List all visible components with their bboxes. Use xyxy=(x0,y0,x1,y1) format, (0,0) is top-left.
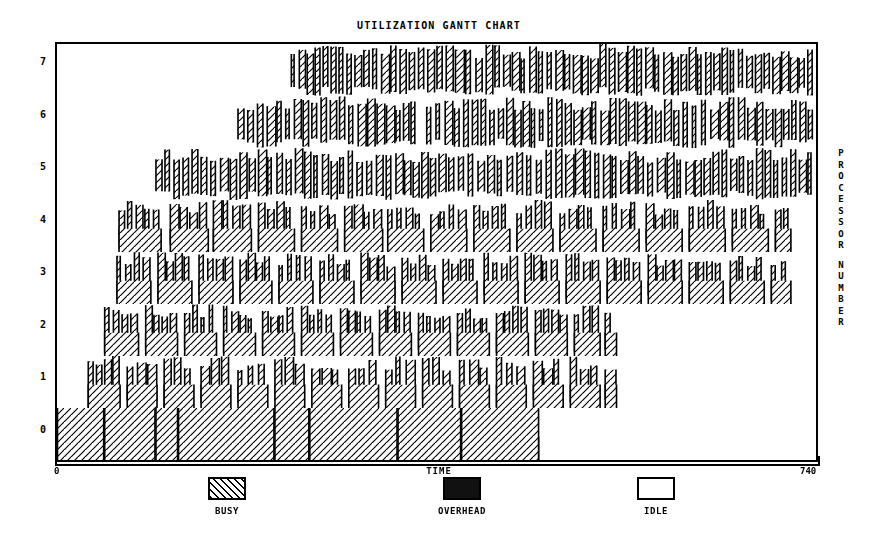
page-title: UTILIZATION GANTT CHART xyxy=(0,20,878,31)
legend-item-idle: IDLE xyxy=(618,477,694,516)
legend: BUSY OVERHEAD IDLE xyxy=(0,477,878,535)
legend-label-busy: BUSY xyxy=(189,506,265,516)
x-axis-title: TIME xyxy=(0,466,878,476)
y-axis-tick-label-4: 4 xyxy=(26,214,46,225)
legend-item-busy: BUSY xyxy=(189,477,265,516)
gantt-chart-page: UTILIZATION GANTT CHART 76543210 0 740 T… xyxy=(0,0,878,535)
y-axis-tick-label-2: 2 xyxy=(26,319,46,330)
y-axis-tick-label-0: 0 xyxy=(26,424,46,435)
legend-swatch-overhead-icon xyxy=(443,477,481,500)
x-axis-tick-end xyxy=(818,456,820,465)
y-axis-title: PROCESSORNUMBER xyxy=(832,148,850,329)
y-axis-tick-label-6: 6 xyxy=(26,109,46,120)
y-axis-tick-label-7: 7 xyxy=(26,56,46,67)
y-axis-tick-label-3: 3 xyxy=(26,266,46,277)
y-axis-tick-label-1: 1 xyxy=(26,371,46,382)
y-axis-tick-label-5: 5 xyxy=(26,161,46,172)
x-axis-tick-start xyxy=(55,456,57,465)
legend-item-overhead: OVERHEAD xyxy=(415,477,509,516)
gantt-plot-canvas xyxy=(57,44,816,460)
plot-area xyxy=(55,42,818,462)
legend-label-overhead: OVERHEAD xyxy=(415,506,509,516)
legend-swatch-busy-icon xyxy=(208,477,246,500)
legend-swatch-idle-icon xyxy=(637,477,675,500)
legend-label-idle: IDLE xyxy=(618,506,694,516)
